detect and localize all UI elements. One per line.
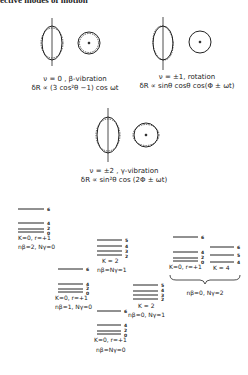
level-label: 5 bbox=[125, 238, 128, 243]
band-label: K = 2 bbox=[138, 302, 155, 309]
rotation-caption: ν = ±1, rotation bbox=[159, 73, 215, 81]
axis-dot bbox=[199, 41, 201, 43]
band-g3 bbox=[97, 240, 122, 255]
band-sublabel: nβ=0, Nγ=1 bbox=[128, 311, 165, 319]
band-label: K = 4 bbox=[213, 264, 230, 271]
level-label: 2 bbox=[125, 254, 128, 259]
level-label: 6 bbox=[124, 309, 127, 314]
level-label: 6 bbox=[86, 267, 89, 272]
beta-vibration-figure bbox=[41, 18, 100, 66]
band-g6 bbox=[173, 237, 198, 261]
beta-caption: ν = 0 , β-vibration bbox=[43, 75, 106, 83]
level-label: 6 bbox=[237, 245, 240, 250]
band-sublabel: nβ=Nγ=0 bbox=[96, 346, 126, 354]
band-label: K=0, r=+1 bbox=[55, 294, 88, 301]
axis-dot bbox=[145, 134, 147, 136]
level-label: 2 bbox=[161, 297, 164, 302]
band-g7 bbox=[210, 247, 234, 262]
band-g4 bbox=[97, 311, 121, 334]
grouping-brace bbox=[170, 275, 240, 284]
beta-formula: δR ∝ (3 cos²θ −1) cos ωt bbox=[32, 84, 119, 92]
rotation-formula: δR ∝ sinθ cosθ cos(Φ ± ωt) bbox=[139, 82, 234, 90]
brace-label: nβ=0, Nγ=2 bbox=[186, 289, 223, 297]
axis-dot bbox=[88, 42, 90, 44]
band-label: K=0, r=+1 bbox=[18, 234, 51, 241]
gamma-vibration-figure bbox=[96, 108, 159, 162]
level-label: 4 bbox=[237, 260, 240, 265]
band-sublabel: nβ=2, Nγ=0 bbox=[18, 243, 55, 251]
level-label: 5 bbox=[237, 253, 240, 258]
band-sublabel: nβ=1, Nγ=0 bbox=[55, 303, 92, 311]
band-label: K=0, r=+1 bbox=[169, 263, 202, 270]
rotation-figure bbox=[151, 17, 211, 70]
level-label: 6 bbox=[47, 207, 50, 212]
band-label: K = 2 bbox=[102, 257, 119, 264]
level-label: 6 bbox=[201, 235, 204, 240]
band-g5 bbox=[133, 285, 158, 299]
gamma-formula: δR ∝ sin²θ cos (2Φ ± ωt) bbox=[81, 176, 168, 184]
gamma-caption: ν = ±2 , γ-vibration bbox=[90, 167, 159, 175]
band-label: K=0, r=+1 bbox=[94, 336, 127, 343]
band-g1 bbox=[18, 209, 44, 232]
collective-modes-diagram: ν = 0 , β-vibration δR ∝ (3 cos²θ −1) co… bbox=[0, 0, 248, 375]
band-g2 bbox=[58, 269, 83, 292]
band-sublabel: nβ=Nγ=1 bbox=[97, 266, 127, 274]
